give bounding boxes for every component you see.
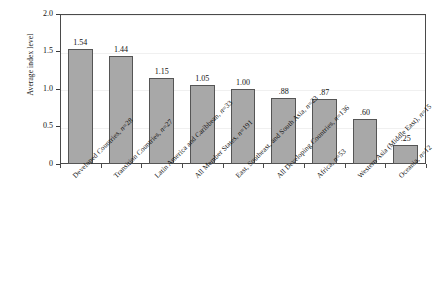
x-axis-label: East, Southeast, and South Asia, n=23: [234, 94, 320, 180]
x-axis-label: Oceania, n=12: [397, 144, 433, 180]
x-axis-label: Latin America and Caribbean, n=33: [153, 99, 234, 180]
x-axis-label: Western Asia (Middle East), n=15: [356, 103, 433, 180]
x-axis-labels: Developed Countries, n=28Transition Coun…: [0, 0, 444, 291]
x-axis-label: Africa, n=53: [315, 147, 348, 180]
bar-chart: Average index level 00.51.01.52.0 1.541.…: [0, 0, 444, 291]
x-axis-label: All Developing Countries, n=136: [275, 104, 351, 180]
